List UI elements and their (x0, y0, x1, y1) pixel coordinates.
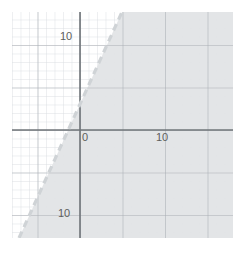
major-gridlines (12, 12, 233, 238)
coordinate-plane-svg (0, 0, 235, 258)
y-axis-tick-label-positive: 10 (60, 30, 72, 42)
y-axis-tick-label-negative: 10 (58, 207, 70, 219)
x-axis-tick-label-positive: 10 (156, 131, 168, 143)
origin-tick-label: 0 (82, 131, 88, 143)
graph-figure: 10 0 10 10 (0, 0, 235, 258)
